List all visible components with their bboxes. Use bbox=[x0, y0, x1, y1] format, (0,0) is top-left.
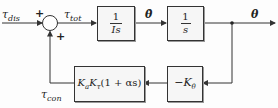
tau-tot-label: τtot bbox=[64, 9, 81, 23]
controller-lead-term: (1 + αs) bbox=[101, 77, 142, 88]
block-inverse-inertia: 1 Is bbox=[97, 6, 135, 41]
numerator: 1 bbox=[180, 12, 190, 23]
summing-junction bbox=[43, 16, 58, 31]
tau-con-label: τcon bbox=[41, 89, 62, 103]
denominator: Is bbox=[111, 25, 120, 36]
gain-label: −K bbox=[174, 76, 191, 89]
numerator: 1 bbox=[111, 12, 121, 23]
block-gain-k-theta: −Kθ bbox=[167, 66, 203, 102]
plus-sign-left: + bbox=[35, 8, 44, 19]
tau-dis-label: τdis bbox=[2, 9, 20, 23]
feedback-path bbox=[203, 23, 232, 83]
block-integrator: 1 s bbox=[167, 6, 204, 41]
theta-dot-label: θ̇ bbox=[145, 9, 152, 20]
plus-sign-bottom: + bbox=[56, 31, 65, 42]
theta-output-label: θ bbox=[251, 9, 258, 20]
block-controller: KaKτ(1 + αs) bbox=[74, 66, 145, 102]
denominator: s bbox=[183, 25, 188, 36]
